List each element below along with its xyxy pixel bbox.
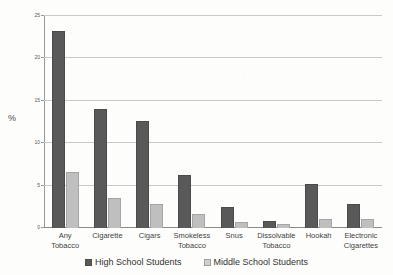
bar[interactable] [347,204,360,228]
x-axis-label: Smokeless Tobacco [171,231,213,250]
legend-item[interactable]: High School Students [85,257,182,267]
bar[interactable] [136,121,149,228]
bar[interactable] [361,219,374,228]
bar[interactable] [305,184,318,228]
bar-group [171,16,213,228]
x-axis-labels: Any TobaccoCigaretteCigarsSmokeless Toba… [44,231,382,250]
x-axis-label: Snus [213,231,255,250]
bar[interactable] [263,221,276,228]
bar-group [213,16,255,228]
x-axis-label: Electronic Cigarettes [340,231,382,250]
bar-group [44,16,86,228]
bar-group [340,16,382,228]
legend-swatch-icon [204,259,211,266]
y-tick-label: 0 [37,225,40,230]
bar-group [86,16,128,228]
y-tick-label: 5 [37,183,40,188]
y-tick-label: 15 [34,98,40,103]
bar[interactable] [235,222,248,228]
y-tick-label: 25 [34,13,40,18]
x-axis-label: Cigarette [86,231,128,250]
y-axis-label: % [8,113,16,123]
plot-area: 0510152025 [44,16,382,228]
x-axis-label: Dissolvable Tobacco [255,231,297,250]
bar[interactable] [94,109,107,228]
bar-group [255,16,297,228]
legend-label: Middle School Students [214,257,309,267]
x-axis-label: Any Tobacco [44,231,86,250]
bar[interactable] [221,207,234,228]
x-axis-label: Hookah [298,231,340,250]
chart-page: % 0510152025 Any TobaccoCigaretteCigarsS… [0,0,393,275]
bar[interactable] [52,31,65,228]
bar[interactable] [178,175,191,228]
bar[interactable] [108,198,121,228]
chart-legend: High School StudentsMiddle School Studen… [0,257,393,267]
y-tick-label: 20 [34,55,40,60]
bar-group [129,16,171,228]
y-tick-label: 10 [34,140,40,145]
bar[interactable] [66,172,79,228]
bar[interactable] [319,219,332,228]
bar-groups [44,16,382,228]
bar[interactable] [277,224,290,228]
bar-group [298,16,340,228]
legend-label: High School Students [95,257,182,267]
legend-item[interactable]: Middle School Students [204,257,309,267]
x-axis-label: Cigars [129,231,171,250]
legend-swatch-icon [85,259,92,266]
bar[interactable] [192,214,205,228]
bar[interactable] [150,204,163,228]
